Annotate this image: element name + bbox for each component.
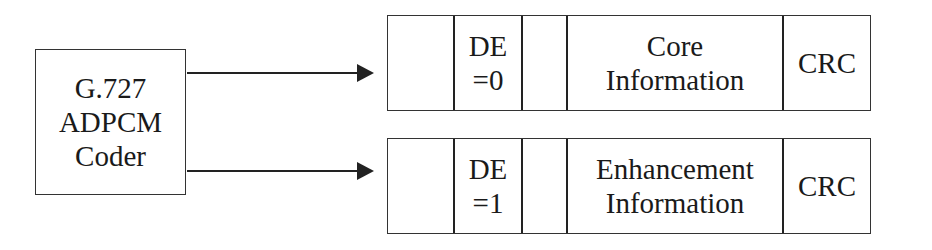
enhancement-frame: DE =1 Enhancement Information CRC — [387, 138, 871, 234]
enh-frame-header-field — [388, 139, 455, 233]
payload-label-2: Information — [606, 186, 745, 220]
de-label: DE — [469, 29, 508, 63]
arrow-to-enhancement-frame — [187, 170, 372, 172]
de-value: =0 — [473, 63, 504, 97]
coder-line-1: G.727 — [75, 71, 147, 105]
enh-frame-de-field: DE =1 — [455, 139, 523, 233]
payload-label-2: Information — [606, 63, 745, 97]
payload-label-1: Core — [647, 29, 703, 63]
core-frame-de-field: DE =0 — [455, 16, 523, 110]
core-frame-spare-field — [523, 16, 568, 110]
core-frame: DE =0 Core Information CRC — [387, 15, 871, 111]
enhancement-information-field: Enhancement Information — [568, 139, 784, 233]
adpcm-coder-block: G.727 ADPCM Coder — [35, 49, 186, 195]
enh-frame-spare-field — [523, 139, 568, 233]
core-information-field: Core Information — [568, 16, 784, 110]
arrow-to-core-frame — [187, 72, 372, 74]
core-frame-header-field — [388, 16, 455, 110]
crc-label: CRC — [798, 46, 856, 80]
crc-label: CRC — [798, 169, 856, 203]
coder-line-2: ADPCM — [59, 105, 162, 139]
de-label: DE — [469, 152, 508, 186]
coder-line-3: Coder — [75, 139, 146, 173]
core-frame-crc-field: CRC — [784, 16, 870, 110]
enh-frame-crc-field: CRC — [784, 139, 870, 233]
payload-label-1: Enhancement — [596, 152, 754, 186]
de-value: =1 — [473, 186, 504, 220]
